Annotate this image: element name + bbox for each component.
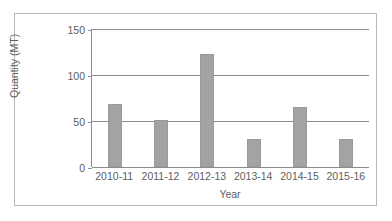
bar-2013-14[interactable] <box>247 139 261 167</box>
bar-slot <box>92 29 138 167</box>
bar-slot <box>138 29 184 167</box>
x-axis-title: Year <box>91 189 369 200</box>
x-tick-labels: 2010-112011-122012-132013-142014-152015-… <box>91 171 369 182</box>
bar-2010-11[interactable] <box>108 104 122 167</box>
y-tick-mark-0 <box>88 168 92 169</box>
gridline-0: 0 <box>92 167 369 168</box>
y-axis-title: Quantity (MT) <box>9 34 20 98</box>
y-tick-label-0: 0 <box>79 163 85 174</box>
bar-2011-12[interactable] <box>154 120 168 167</box>
x-tick-label-2012-13: 2012-13 <box>184 171 230 182</box>
x-tick-label-2013-14: 2013-14 <box>230 171 276 182</box>
y-tick-label-50: 50 <box>73 117 85 128</box>
bar-slot <box>231 29 277 167</box>
x-tick-label-2011-12: 2011-12 <box>137 171 183 182</box>
bar-slot <box>323 29 369 167</box>
bar-2012-13[interactable] <box>200 54 214 167</box>
x-tick-label-2010-11: 2010-11 <box>91 171 137 182</box>
bar-2014-15[interactable] <box>293 107 307 167</box>
plot-area: 150 100 50 0 <box>91 29 369 167</box>
x-tick-label-2014-15: 2014-15 <box>276 171 322 182</box>
y-tick-label-100: 100 <box>67 71 85 82</box>
bar-slot <box>184 29 230 167</box>
y-tick-label-150: 150 <box>67 25 85 36</box>
chart-frame: Quantity (MT) 150 100 50 0 2010-112011-1… <box>14 13 377 206</box>
x-tick-label-2015-16: 2015-16 <box>323 171 369 182</box>
bar-series <box>92 29 369 167</box>
bar-slot <box>277 29 323 167</box>
bar-2015-16[interactable] <box>339 139 353 167</box>
